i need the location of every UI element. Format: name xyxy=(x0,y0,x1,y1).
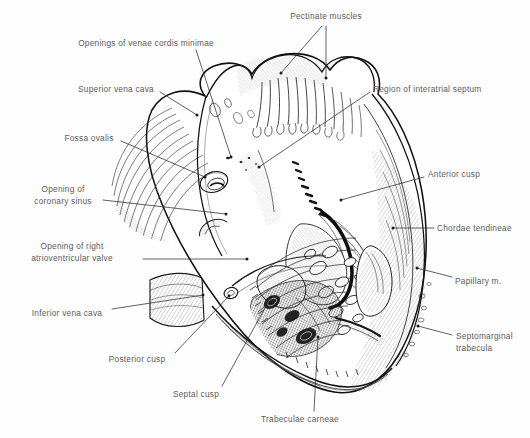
label-opening-of-right-atrioventricular-valve: Opening of right atrioventricular valve xyxy=(31,241,113,264)
leader-endpoint-anterior-cusp xyxy=(340,199,343,202)
leader-endpoint-opening-of-right-atrioventricular-valve xyxy=(246,258,249,261)
leader-endpoint-septomarginal-trabecula xyxy=(417,325,420,328)
label-openings-venae-cordis-minimae: Openings of venae cordis minimae xyxy=(78,38,214,50)
leader-endpoint-opening-of-coronary-sinus xyxy=(225,213,228,216)
leader-endpoint-pectinate-muscles-2 xyxy=(280,72,283,75)
label-region-of-interatrial-septum: Region of interatrial septum xyxy=(373,84,481,96)
label-chordae-tendineae: Chordae tendineae xyxy=(437,223,512,235)
label-opening-of-coronary-sinus: Opening of coronary sinus xyxy=(34,184,91,207)
label-inferior-vena-cava: Inferior vena cava xyxy=(32,308,102,320)
leader-endpoint-posterior-cusp xyxy=(228,295,231,298)
label-anterior-cusp: Anterior cusp xyxy=(428,169,480,181)
leader-endpoint-septal-cusp xyxy=(270,296,273,299)
label-septomarginal-trabecula: Septomarginal trabecula xyxy=(456,331,513,354)
label-pectinate-muscles: Pectinate muscles xyxy=(290,11,362,23)
label-septal-cusp: Septal cusp xyxy=(173,389,219,401)
leader-endpoint-openings-venae-cordis-minimae xyxy=(230,156,233,159)
leader-septomarginal-trabecula xyxy=(418,326,452,335)
leader-endpoint-superior-vena-cava xyxy=(196,114,199,117)
leader-endpoint-pectinate-muscles xyxy=(325,77,328,80)
leader-endpoint-inferior-vena-cava xyxy=(202,294,205,297)
leader-endpoint-region-of-interatrial-septum xyxy=(258,166,261,169)
leader-endpoint-chordae-tendineae xyxy=(392,227,395,230)
leader-endpoint-trabeculae-carneae xyxy=(317,336,320,339)
label-superior-vena-cava: Superior vena cava xyxy=(78,84,154,96)
leader-endpoint-papillary-m xyxy=(416,267,419,270)
anatomical-figure: Pectinate musclesOpenings of venae cordi… xyxy=(0,0,530,438)
heart-illustration xyxy=(0,0,530,438)
label-posterior-cusp: Posterior cusp xyxy=(109,354,166,366)
label-trabeculae-carneae: Trabeculae carneae xyxy=(261,414,339,426)
leader-endpoint-fossa-ovalis xyxy=(204,176,207,179)
label-papillary-m: Papillary m. xyxy=(455,276,501,288)
label-fossa-ovalis: Fossa ovalis xyxy=(64,133,113,145)
